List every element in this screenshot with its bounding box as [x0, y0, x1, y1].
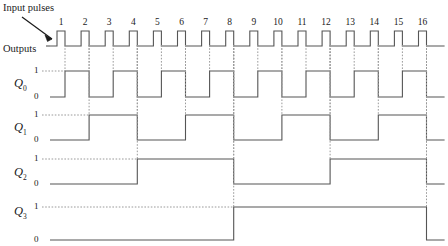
pulse-number-3: 3 — [101, 18, 117, 28]
pulse-number-16: 16 — [415, 18, 431, 28]
waveform-q0 — [50, 71, 445, 97]
waveform-q1 — [50, 115, 445, 140]
clock-waveform — [50, 31, 445, 46]
signal-name-q1: Q1 — [14, 121, 27, 136]
pulse-number-10: 10 — [270, 18, 286, 28]
input-pulses-label: Input pulses — [3, 3, 54, 14]
pulse-number-8: 8 — [222, 18, 238, 28]
pulse-number-1: 1 — [53, 18, 69, 28]
pulse-number-7: 7 — [198, 18, 214, 28]
waveform-canvas — [0, 0, 448, 246]
outputs-label: Outputs — [3, 44, 36, 55]
timing-diagram-figure: Input pulses Outputs 1234567891011121314… — [0, 0, 448, 246]
signal-name-subscript: 0 — [23, 84, 27, 93]
signal-name-base: Q — [14, 76, 23, 90]
pulse-number-4: 4 — [125, 18, 141, 28]
pulse-number-12: 12 — [318, 18, 334, 28]
signal-name-q3: Q3 — [14, 205, 27, 220]
level-label-low-q0: 0 — [34, 92, 39, 101]
input-pulses-arrow-shaft — [22, 17, 52, 39]
signal-name-base: Q — [14, 204, 23, 218]
pulse-number-9: 9 — [246, 18, 262, 28]
level-label-high-q0: 1 — [34, 66, 39, 75]
signal-name-q2: Q2 — [14, 166, 27, 181]
signal-name-base: Q — [14, 165, 23, 179]
level-label-high-q2: 1 — [34, 154, 39, 163]
waveform-q2 — [50, 159, 445, 184]
signal-name-subscript: 1 — [23, 128, 27, 137]
waveform-q3 — [50, 207, 445, 240]
pulse-number-2: 2 — [77, 18, 93, 28]
signal-name-base: Q — [14, 120, 23, 134]
level-label-high-q3: 1 — [34, 202, 39, 211]
signal-name-subscript: 3 — [23, 212, 27, 221]
level-label-low-q3: 0 — [34, 235, 39, 244]
pulse-number-6: 6 — [174, 18, 190, 28]
level-label-low-q2: 0 — [34, 179, 39, 188]
level-label-low-q1: 0 — [34, 135, 39, 144]
pulse-number-14: 14 — [366, 18, 382, 28]
pulse-number-15: 15 — [390, 18, 406, 28]
pulse-number-5: 5 — [149, 18, 165, 28]
signal-name-subscript: 2 — [23, 173, 27, 182]
level-label-high-q1: 1 — [34, 110, 39, 119]
pulse-number-13: 13 — [342, 18, 358, 28]
signal-name-q0: Q0 — [14, 77, 27, 92]
pulse-number-11: 11 — [294, 18, 310, 28]
